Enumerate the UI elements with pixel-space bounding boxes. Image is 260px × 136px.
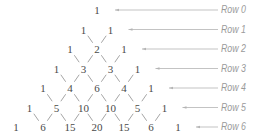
connector-line <box>128 94 133 101</box>
connector-line <box>47 94 52 101</box>
triangle-value: 1 <box>108 24 114 35</box>
connector-line <box>101 75 106 82</box>
connector-line <box>115 55 120 62</box>
connector-line <box>88 75 93 82</box>
triangle-value: 20 <box>92 122 103 133</box>
connector-line <box>88 36 93 43</box>
pascals-triangle-diagram: 111121133114641151010511615201561 Row 0R… <box>0 0 260 136</box>
triangle-value: 10 <box>105 102 116 113</box>
triangle-value: 1 <box>81 24 87 35</box>
triangle-value: 5 <box>135 102 141 113</box>
triangle-value: 1 <box>135 63 141 74</box>
connector-line <box>61 94 66 101</box>
connector-line <box>101 55 106 62</box>
triangle-value: 1 <box>175 122 181 133</box>
connector-line <box>142 114 147 121</box>
connector-line <box>101 36 106 43</box>
triangle-value: 4 <box>67 83 73 94</box>
triangle-value: 1 <box>121 44 127 55</box>
triangle-value: 2 <box>94 44 100 55</box>
triangle-value: 5 <box>54 102 60 113</box>
triangle-value: 3 <box>108 63 114 74</box>
row-label: Row 5 <box>221 103 246 113</box>
arrowhead-icon <box>115 9 119 12</box>
triangle-value: 1 <box>148 83 154 94</box>
row-label: Row 0 <box>221 5 246 15</box>
connector-line <box>155 114 160 121</box>
row-label: Row 6 <box>221 122 246 132</box>
triangle-value: 1 <box>54 63 60 74</box>
row-label: Row 1 <box>221 25 246 35</box>
connector-line <box>74 55 79 62</box>
arrowhead-icon <box>183 106 187 109</box>
row-label: Row 4 <box>221 83 246 93</box>
connector-line <box>47 114 52 121</box>
triangle-value: 10 <box>78 102 89 113</box>
triangle-value: 1 <box>40 83 46 94</box>
triangle-value: 1 <box>67 44 73 55</box>
connector-line <box>61 75 66 82</box>
arrowhead-icon <box>142 48 146 51</box>
triangle-value: 3 <box>81 63 87 74</box>
triangle-value: 1 <box>13 122 19 133</box>
triangle-value: 1 <box>27 102 33 113</box>
triangle-value: 6 <box>148 122 154 133</box>
arrowhead-icon <box>129 28 133 31</box>
row-label: Row 2 <box>221 44 246 54</box>
arrowhead-icon <box>156 67 160 70</box>
triangle-value: 15 <box>119 122 130 133</box>
connector-line <box>142 94 147 101</box>
triangle-value: 1 <box>94 5 100 16</box>
triangle-value: 15 <box>65 122 76 133</box>
arrowhead-icon <box>196 126 200 129</box>
triangle-value: 6 <box>94 83 100 94</box>
arrowhead-icon <box>169 87 173 90</box>
connector-line <box>115 75 120 82</box>
connector-line <box>88 55 93 62</box>
triangle-value: 1 <box>162 102 168 113</box>
connector-line <box>34 114 39 121</box>
row-label: Row 3 <box>221 64 246 74</box>
connector-line <box>128 75 133 82</box>
triangle-value: 6 <box>40 122 46 133</box>
triangle-value: 4 <box>121 83 127 94</box>
connector-line <box>74 75 79 82</box>
